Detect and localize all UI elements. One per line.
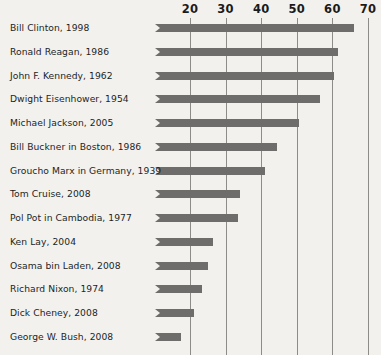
- category-label: Groucho Marx in Germany, 1939: [10, 165, 161, 176]
- category-label: Tom Cruise, 2008: [10, 188, 91, 199]
- category-label: Dwight Eisenhower, 1954: [10, 93, 129, 104]
- category-label: Bill Clinton, 1998: [10, 22, 89, 33]
- category-label: Dick Cheney, 2008: [10, 307, 98, 318]
- category-label: Osama bin Laden, 2008: [10, 260, 121, 271]
- category-label: Bill Buckner in Boston, 1986: [10, 141, 141, 152]
- category-label: Ken Lay, 2004: [10, 236, 76, 247]
- category-label: Ronald Reagan, 1986: [10, 46, 109, 57]
- category-label: John F. Kennedy, 1962: [10, 70, 113, 81]
- category-label: Pol Pot in Cambodia, 1977: [10, 212, 132, 223]
- category-label: George W. Bush, 2008: [10, 331, 113, 342]
- category-label: Richard Nixon, 1974: [10, 283, 104, 294]
- category-label: Michael Jackson, 2005: [10, 117, 113, 128]
